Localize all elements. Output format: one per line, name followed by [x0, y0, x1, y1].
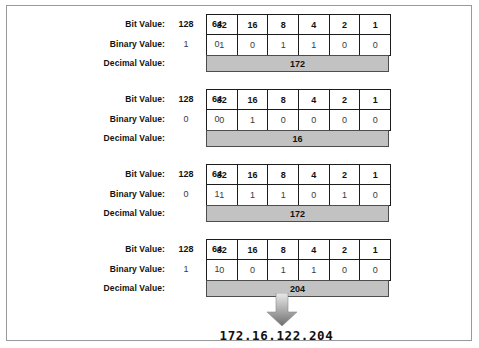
binary-value-row: Binary Value:11001100	[7, 259, 471, 279]
binary-digit-128: 0	[172, 184, 200, 204]
bit-weight-128: 128	[172, 89, 200, 109]
decimal-value-bar: 16	[206, 130, 389, 147]
binary-digit-cell: 0	[298, 185, 329, 205]
bit-value-row: Bit Value:1286432168421	[7, 14, 471, 34]
binary-value-grid: 001100	[206, 259, 391, 281]
binary-digit-cell: 0	[359, 35, 390, 55]
bit-weight-cell: 32	[207, 90, 237, 110]
bit-weight-cell: 8	[267, 240, 298, 260]
binary-digit-cell: 1	[267, 260, 298, 280]
bit-value-grid: 32168421	[206, 164, 391, 185]
binary-digit-cell: 0	[207, 110, 237, 130]
octet-block: Bit Value:1286432168421Binary Value:0001…	[7, 89, 471, 151]
decimal-value-bar: 172	[206, 205, 389, 222]
binary-digit-cell: 0	[359, 260, 390, 280]
decimal-value-row: Decimal Value:172	[7, 205, 471, 222]
binary-value-grid: 111010	[206, 184, 391, 206]
figure-frame: Bit Value:1286432168421Binary Value:1010…	[6, 5, 472, 341]
binary-digit-cell: 0	[329, 35, 360, 55]
bit-value-row: Bit Value:1286432168421	[7, 89, 471, 109]
binary-value-row: Binary Value:10101100	[7, 34, 471, 54]
bit-weight-cell: 16	[237, 15, 268, 35]
binary-value-grid: 101100	[206, 34, 391, 56]
octet-block-list: Bit Value:1286432168421Binary Value:1010…	[7, 6, 471, 301]
bit-weight-cell: 1	[359, 90, 390, 110]
bit-value-label: Bit Value:	[7, 164, 165, 184]
bit-weight-cell: 8	[267, 90, 298, 110]
bit-weight-cell: 4	[298, 15, 329, 35]
down-arrow-icon	[265, 293, 299, 327]
binary-digit-cell: 1	[298, 260, 329, 280]
bit-value-grid: 32168421	[206, 14, 391, 35]
binary-digit-cell: 0	[267, 110, 298, 130]
binary-digit-cell: 0	[237, 35, 268, 55]
binary-digit-cell: 1	[329, 185, 360, 205]
octet-block: Bit Value:1286432168421Binary Value:1010…	[7, 14, 471, 76]
bit-weight-cell: 32	[207, 240, 237, 260]
binary-digit-cell: 0	[298, 110, 329, 130]
binary-digit-cell: 1	[237, 185, 268, 205]
bit-weight-cell: 16	[237, 165, 268, 185]
binary-digit-cell: 0	[207, 260, 237, 280]
ip-address-result: 172.16.122.204	[7, 328, 471, 343]
bit-weight-cell: 4	[298, 165, 329, 185]
bit-weight-cell: 4	[298, 90, 329, 110]
bit-weight-cell: 16	[237, 240, 268, 260]
binary-digit-cell: 0	[329, 260, 360, 280]
bit-weight-cell: 8	[267, 15, 298, 35]
bit-weight-cell: 32	[207, 165, 237, 185]
binary-value-grid: 010000	[206, 109, 391, 131]
bit-weight-128: 128	[172, 14, 200, 34]
bit-value-label: Bit Value:	[7, 239, 165, 259]
binary-digit-cell: 1	[207, 35, 237, 55]
binary-digit-cell: 1	[298, 35, 329, 55]
bit-value-label: Bit Value:	[7, 89, 165, 109]
octet-block: Bit Value:1286432168421Binary Value:1100…	[7, 239, 471, 301]
decimal-value-label: Decimal Value:	[7, 205, 165, 222]
decimal-value-bar: 172	[206, 55, 389, 72]
bit-weight-cell: 1	[359, 15, 390, 35]
binary-value-row: Binary Value:00010000	[7, 109, 471, 129]
bit-value-grid: 32168421	[206, 89, 391, 110]
binary-digit-128: 1	[172, 259, 200, 279]
binary-digit-cell: 1	[237, 110, 268, 130]
bit-weight-cell: 32	[207, 15, 237, 35]
binary-value-label: Binary Value:	[7, 109, 165, 129]
decimal-value-label: Decimal Value:	[7, 130, 165, 147]
bit-weight-cell: 2	[329, 165, 360, 185]
bit-value-grid: 32168421	[206, 239, 391, 260]
bit-value-label: Bit Value:	[7, 14, 165, 34]
decimal-value-row: Decimal Value:172	[7, 55, 471, 72]
binary-digit-cell: 1	[267, 35, 298, 55]
bit-weight-cell: 2	[329, 15, 360, 35]
decimal-value-label: Decimal Value:	[7, 55, 165, 72]
decimal-value-row: Decimal Value:16	[7, 130, 471, 147]
bit-weight-cell: 1	[359, 165, 390, 185]
binary-digit-cell: 1	[207, 185, 237, 205]
binary-value-label: Binary Value:	[7, 184, 165, 204]
bit-weight-cell: 16	[237, 90, 268, 110]
bit-weight-cell: 4	[298, 240, 329, 260]
bit-weight-128: 128	[172, 239, 200, 259]
binary-digit-128: 0	[172, 109, 200, 129]
binary-digit-128: 1	[172, 34, 200, 54]
binary-digit-cell: 0	[329, 110, 360, 130]
binary-value-label: Binary Value:	[7, 34, 165, 54]
bit-value-row: Bit Value:1286432168421	[7, 239, 471, 259]
bit-weight-cell: 2	[329, 90, 360, 110]
bit-weight-cell: 2	[329, 240, 360, 260]
binary-digit-cell: 0	[237, 260, 268, 280]
bit-weight-cell: 8	[267, 165, 298, 185]
binary-value-label: Binary Value:	[7, 259, 165, 279]
bit-weight-128: 128	[172, 164, 200, 184]
binary-value-row: Binary Value:01111010	[7, 184, 471, 204]
arrow-and-result: 172.16.122.204	[7, 293, 471, 333]
binary-digit-cell: 1	[267, 185, 298, 205]
binary-digit-cell: 0	[359, 185, 390, 205]
binary-digit-cell: 0	[359, 110, 390, 130]
bit-value-row: Bit Value:1286432168421	[7, 164, 471, 184]
octet-block: Bit Value:1286432168421Binary Value:0111…	[7, 164, 471, 226]
bit-weight-cell: 1	[359, 240, 390, 260]
